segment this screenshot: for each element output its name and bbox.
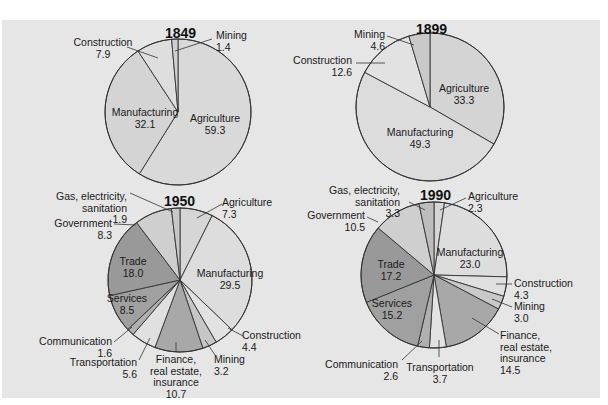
slice-label: Finance,real estate,insurance10.7 (150, 353, 202, 400)
slice-label: Mining1.4 (216, 29, 247, 53)
year-title: 1990 (420, 187, 451, 203)
slice-label: Agriculture2.3 (468, 190, 518, 214)
year-title: 1849 (165, 25, 196, 41)
pie-1950: 1950Agriculture7.3Manufacturing29.5Const… (39, 190, 301, 400)
year-title: 1950 (164, 193, 195, 209)
slice-label: Government8.3 (54, 217, 112, 241)
slice-label: Construction4.4 (242, 329, 301, 353)
slice-label: Communication2.6 (325, 358, 398, 382)
slice-label: Communication1.6 (39, 335, 112, 359)
slice-label: Mining3.2 (214, 353, 245, 377)
pie-charts-figure: 1849Agriculture59.3Manufacturing32.1Cons… (0, 0, 608, 405)
slice-label: Trade17.2 (377, 258, 404, 282)
slice-label: Transportation3.7 (406, 361, 473, 385)
slice-label: Construction12.6 (293, 54, 352, 78)
leader-line (367, 217, 378, 222)
pie-1899: 1899Agriculture33.3Manufacturing49.3Cons… (293, 21, 504, 181)
pie-1990: 1990Agriculture2.3Manufacturing23.0Const… (307, 184, 573, 385)
slice-label: Mining3.0 (514, 300, 545, 324)
leader-line (114, 327, 132, 342)
slice-label: Government10.5 (307, 209, 365, 233)
slice-label: Construction4.3 (514, 277, 573, 301)
slice-label: Mining4.6 (354, 28, 385, 52)
year-title: 1899 (416, 21, 447, 37)
slice-label: Trade18.0 (119, 255, 146, 279)
slice-label: Agriculture7.3 (222, 196, 272, 220)
pie-1849: 1849Agriculture59.3Manufacturing32.1Cons… (74, 25, 251, 185)
slice-label: Construction7.9 (74, 36, 133, 60)
slice-label: Transportation5.6 (70, 356, 137, 380)
slice-label: Finance,real estate,insurance14.5 (500, 329, 552, 376)
